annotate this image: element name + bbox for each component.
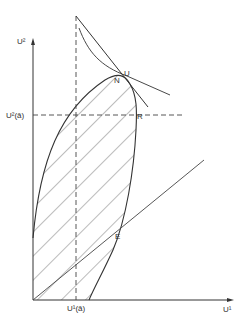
horizontal-reference-label: U²(ā) (6, 111, 25, 120)
x-axis-arrow-icon (227, 298, 234, 302)
vertical-reference-label: U¹(ā) (67, 304, 86, 313)
point-n-label: N (114, 76, 120, 85)
point-r-label: R (137, 112, 143, 121)
feasible-region (0, 0, 246, 323)
y-axis-arrow-icon (31, 38, 35, 45)
point-u-label: U (124, 69, 130, 78)
x-axis-label: U¹ (223, 305, 232, 314)
y-axis-label: U² (17, 37, 26, 46)
utility-possibility-diagram: U² U¹ U²(ā) U¹(ā) U N R E (0, 0, 246, 323)
point-e-label: E (115, 232, 120, 241)
